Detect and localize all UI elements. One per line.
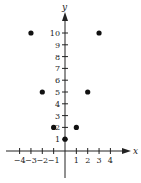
y-tick-label: 6 [55,76,60,85]
x-axis-label: x [133,146,138,156]
y-tick-label: 10 [50,29,60,38]
x-axis-arrow-icon [122,148,131,154]
x-tick-label: 4 [108,156,113,165]
data-point [51,125,56,130]
x-tick-label: −4 [14,156,26,165]
y-tick-label: 5 [55,88,60,97]
x-tick-label: −2 [36,156,48,165]
x-tick-label: 3 [97,156,102,165]
y-tick-label: 7 [55,64,60,73]
data-point [74,125,79,130]
x-tick-label: −3 [25,156,37,165]
data-point [40,89,45,94]
axes: x y [6,2,138,178]
y-tick-label: 4 [55,100,60,109]
data-point [62,137,67,142]
x-tick-label: 2 [85,156,90,165]
x-tick-label: −1 [48,156,60,165]
data-point [85,89,90,94]
data-point [28,30,33,35]
y-tick-label: 3 [55,112,60,121]
x-tick-label: 1 [74,156,79,165]
y-tick-label: 9 [55,41,60,50]
scatter-plot: x y −4−3−2−11234 12345678910 [0,0,141,183]
y-axis-label: y [61,2,68,12]
y-tick-label: 1 [55,135,60,144]
y-tick-label: 8 [55,53,60,62]
y-axis-arrow-icon [62,12,68,21]
data-point [96,30,101,35]
